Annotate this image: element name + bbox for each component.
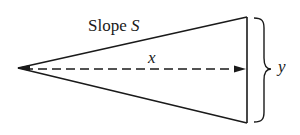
triangle-diagram	[0, 0, 300, 135]
arrowhead-icon	[234, 66, 246, 73]
slope-symbol: S	[131, 16, 140, 35]
curly-brace	[254, 18, 271, 122]
slope-word: Slope	[88, 16, 127, 35]
lower-edge	[18, 68, 247, 123]
x-label: x	[148, 49, 156, 66]
y-label: y	[278, 58, 286, 75]
slope-label: Slope S	[88, 17, 139, 34]
